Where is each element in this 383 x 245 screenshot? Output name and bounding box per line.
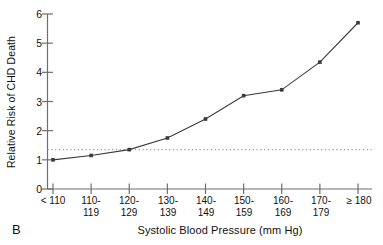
chart-figure: Relative Risk of CHD Death Systolic Bloo… xyxy=(0,0,383,245)
data-point-marker xyxy=(127,148,131,152)
data-point-marker xyxy=(51,158,55,162)
data-line xyxy=(53,23,358,160)
data-point-marker xyxy=(280,88,284,92)
data-point-marker xyxy=(356,21,360,25)
data-point-marker xyxy=(318,60,322,64)
data-point-marker xyxy=(242,94,246,98)
data-markers xyxy=(51,21,360,162)
plot-area xyxy=(0,0,383,245)
y-axis xyxy=(42,14,53,189)
data-point-marker xyxy=(204,117,208,121)
data-point-marker xyxy=(166,136,170,140)
data-point-marker xyxy=(89,154,93,158)
x-axis xyxy=(48,184,373,195)
